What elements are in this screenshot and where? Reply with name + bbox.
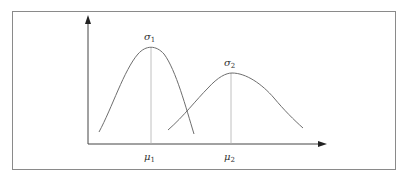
mu-1-label: μ1 xyxy=(144,151,155,164)
distribution-diagram: σ1 σ2 μ1 μ2 xyxy=(0,0,406,180)
sigma-2-label: σ2 xyxy=(224,57,235,70)
curve-1 xyxy=(99,47,194,134)
y-axis-arrow-icon xyxy=(85,15,91,24)
x-axis-arrow-icon xyxy=(318,141,327,147)
curve-2 xyxy=(168,73,303,130)
x-axis xyxy=(88,141,327,147)
mu-2-label: μ2 xyxy=(224,151,235,164)
y-axis xyxy=(85,15,91,144)
sigma-1-label: σ1 xyxy=(144,31,155,44)
